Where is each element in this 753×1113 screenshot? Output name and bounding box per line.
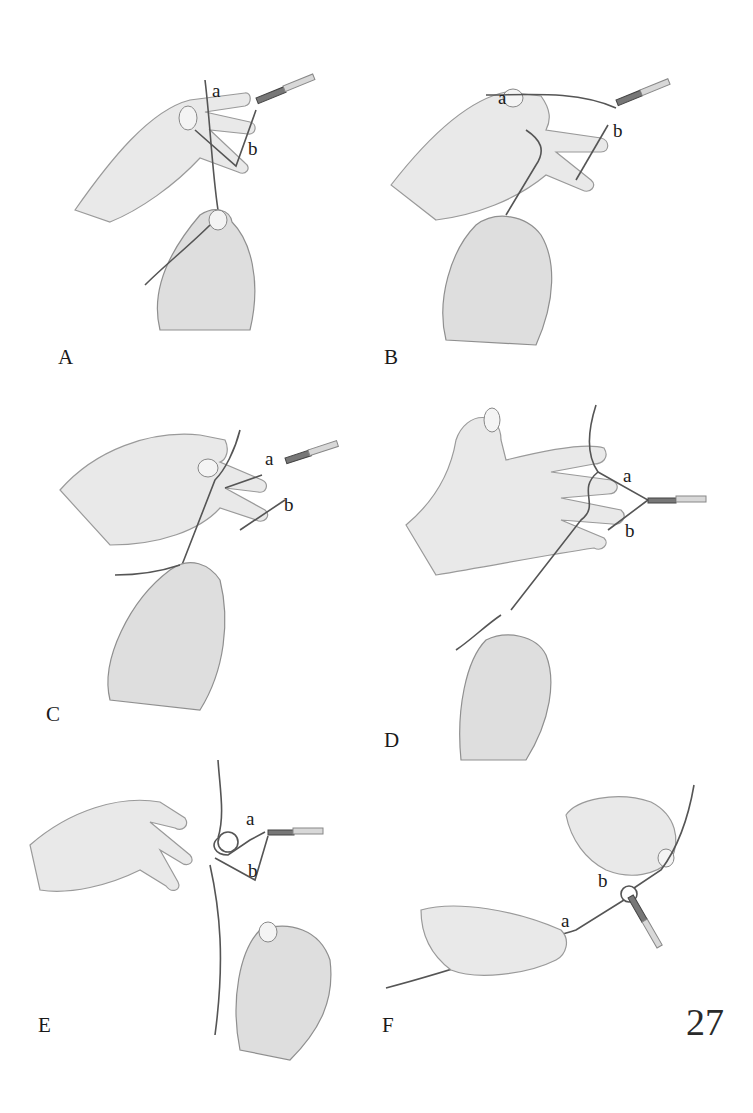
- strand-label-b: b: [625, 520, 635, 542]
- panel-label: D: [384, 728, 399, 753]
- strand-label-a: a: [623, 465, 631, 487]
- panel-label: A: [58, 345, 73, 370]
- hand-tying-illustration: [0, 760, 376, 1113]
- panel-label: B: [384, 345, 398, 370]
- strand-label-a: a: [498, 87, 506, 109]
- panel-label: F: [382, 1013, 394, 1038]
- panel-c: a b C: [0, 380, 376, 760]
- hand-tying-illustration: [0, 0, 376, 380]
- strand-label-b: b: [248, 138, 258, 160]
- panel-e: a b E: [0, 760, 376, 1113]
- panel-f: a b F: [376, 760, 753, 1113]
- hand-tying-illustration: [376, 760, 753, 1113]
- strand-label-a: a: [246, 808, 254, 830]
- strand-label-b: b: [598, 870, 608, 892]
- hand-tying-illustration: [376, 380, 753, 760]
- panel-label: C: [46, 702, 60, 727]
- panel-d: a b D: [376, 380, 753, 760]
- panel-label: E: [38, 1013, 51, 1038]
- strand-label-a: a: [561, 910, 569, 932]
- page-number: 27: [686, 1000, 724, 1044]
- strand-label-b: b: [613, 120, 623, 142]
- hand-tying-illustration: [376, 0, 753, 380]
- strand-label-b: b: [248, 860, 258, 882]
- strand-label-a: a: [212, 80, 220, 102]
- panel-b: a b B: [376, 0, 753, 380]
- strand-label-a: a: [265, 448, 273, 470]
- panel-a: a b A: [0, 0, 376, 380]
- strand-label-b: b: [284, 494, 294, 516]
